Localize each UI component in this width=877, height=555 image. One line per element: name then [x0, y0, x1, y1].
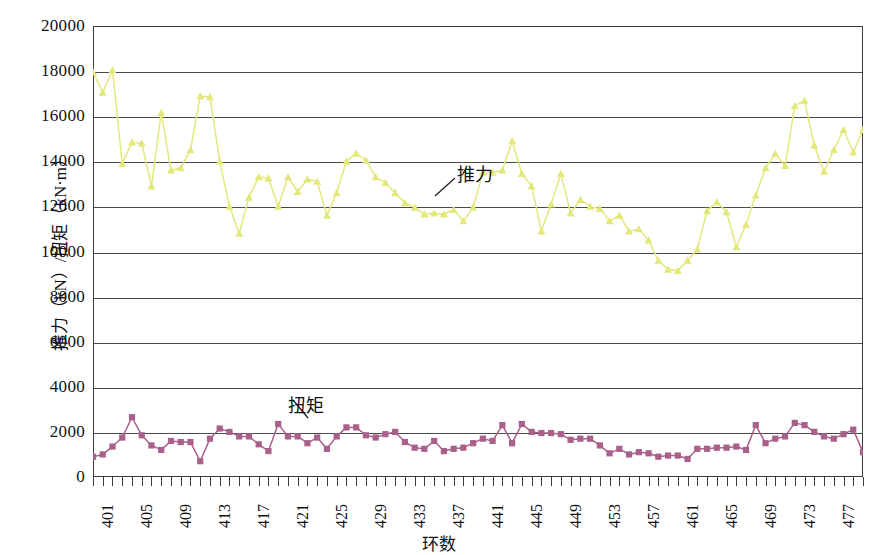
data-point-torque	[187, 439, 193, 445]
x-tick-mark	[142, 477, 143, 486]
data-point-thrust	[498, 166, 506, 173]
data-point-torque	[295, 433, 301, 439]
data-point-thrust	[333, 189, 341, 196]
x-tick-mark	[746, 477, 747, 486]
x-tick-mark	[844, 477, 845, 486]
data-point-torque	[100, 451, 106, 457]
data-point-thrust	[849, 148, 857, 155]
data-point-thrust	[713, 198, 721, 205]
x-tick-mark	[122, 477, 123, 486]
x-tick-mark	[424, 477, 425, 486]
data-point-torque	[645, 450, 651, 456]
x-tick-mark	[317, 477, 318, 486]
x-tick-label: 409	[177, 504, 195, 528]
data-point-torque	[129, 414, 135, 420]
data-point-torque	[684, 456, 690, 462]
data-point-thrust	[245, 193, 253, 200]
data-point-thrust	[635, 225, 643, 232]
data-point-torque	[626, 451, 632, 457]
data-point-torque	[207, 436, 213, 442]
data-point-torque	[246, 433, 252, 439]
data-point-thrust	[654, 257, 662, 264]
x-tick-mark	[610, 477, 611, 486]
x-tick-mark	[707, 477, 708, 486]
x-tick-mark	[210, 477, 211, 486]
data-point-thrust	[108, 66, 116, 73]
x-tick-label: 465	[723, 504, 741, 528]
x-tick-mark	[697, 477, 698, 486]
x-tick-mark	[171, 477, 172, 486]
x-tick-mark	[327, 477, 328, 486]
data-point-torque	[343, 424, 349, 430]
x-tick-mark	[502, 477, 503, 486]
x-tick-mark	[785, 477, 786, 486]
x-tick-mark	[853, 477, 854, 486]
data-point-torque	[558, 431, 564, 437]
data-point-torque	[139, 432, 145, 438]
series-torque	[93, 414, 863, 464]
x-tick-mark	[395, 477, 396, 486]
x-tick-mark	[571, 477, 572, 486]
x-tick-mark	[307, 477, 308, 486]
data-point-thrust	[801, 96, 809, 103]
x-tick-mark	[249, 477, 250, 486]
x-tick-label: 401	[99, 504, 117, 528]
data-point-torque	[792, 420, 798, 426]
x-tick-mark	[824, 477, 825, 486]
data-point-thrust	[177, 164, 185, 171]
x-tick-mark	[473, 477, 474, 486]
data-point-torque	[714, 445, 720, 451]
x-tick-label: 445	[528, 504, 546, 528]
data-point-torque	[197, 458, 203, 464]
x-tick-mark	[658, 477, 659, 486]
x-tick-label: 457	[645, 504, 663, 528]
data-point-torque	[636, 449, 642, 455]
data-point-torque	[694, 446, 700, 452]
data-point-torque	[353, 424, 359, 430]
data-point-torque	[840, 431, 846, 437]
x-tick-label: 453	[606, 504, 624, 528]
x-tick-mark	[678, 477, 679, 486]
y-tick-label: 18000	[41, 61, 85, 81]
data-point-torque	[743, 447, 749, 453]
data-point-torque	[499, 422, 505, 428]
x-tick-mark	[112, 477, 113, 486]
x-tick-mark	[561, 477, 562, 486]
x-tick-mark	[415, 477, 416, 486]
x-tick-label: 461	[684, 504, 702, 528]
data-point-torque	[412, 445, 418, 451]
data-point-torque	[850, 427, 856, 433]
data-point-torque	[93, 454, 96, 460]
data-point-torque	[801, 422, 807, 428]
x-tick-mark	[649, 477, 650, 486]
chart-root: 2000018000160001400012000100008000600040…	[0, 0, 877, 555]
x-tick-mark	[551, 477, 552, 486]
x-tick-mark	[805, 477, 806, 486]
x-tick-mark	[736, 477, 737, 486]
x-tick-mark	[688, 477, 689, 486]
x-axis-ticks	[93, 477, 863, 486]
x-tick-mark	[756, 477, 757, 486]
x-tick-mark	[376, 477, 377, 486]
data-point-torque	[236, 433, 242, 439]
data-point-thrust	[469, 204, 477, 211]
x-tick-mark	[346, 477, 347, 486]
data-point-thrust	[508, 137, 516, 144]
series-layer	[93, 26, 863, 477]
data-point-thrust	[147, 182, 155, 189]
annotation-thrust: 推力	[457, 160, 493, 186]
data-point-torque	[373, 434, 379, 440]
data-point-thrust	[752, 191, 760, 198]
data-point-torque	[509, 440, 515, 446]
y-tick-label: 20000	[41, 16, 85, 36]
x-tick-mark	[298, 477, 299, 486]
x-tick-mark	[454, 477, 455, 486]
x-tick-mark	[522, 477, 523, 486]
data-point-thrust	[372, 173, 380, 180]
x-tick-mark	[483, 477, 484, 486]
data-point-torque	[285, 433, 291, 439]
x-tick-mark	[181, 477, 182, 486]
data-point-torque	[860, 449, 863, 455]
data-point-torque	[382, 431, 388, 437]
data-point-thrust	[742, 220, 750, 227]
